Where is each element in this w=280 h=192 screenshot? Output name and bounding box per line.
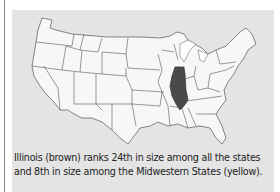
us-map: [12, 10, 274, 150]
us-outline: [32, 18, 256, 144]
margin-rule: [4, 0, 5, 192]
figure-caption: Illinois (brown) ranks 24th in size amon…: [14, 151, 276, 179]
